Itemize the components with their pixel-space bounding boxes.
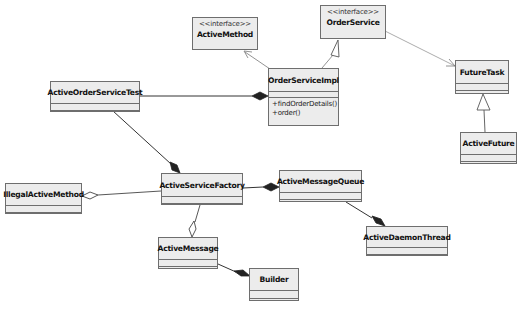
- class-header: Builder: [250, 269, 298, 291]
- generalization-activefuture-futuretask: [477, 94, 490, 132]
- operations-section: [162, 204, 242, 209]
- class-order-service[interactable]: <<interface>> OrderService: [320, 5, 386, 39]
- class-name: OrderService: [326, 17, 379, 28]
- class-header: FutureTask: [456, 61, 508, 84]
- attributes-section: [280, 193, 361, 200]
- operations-section: +findOrderDetails() +order(): [269, 98, 338, 125]
- composition-test-factory: [113, 111, 180, 173]
- operations-section: [461, 162, 516, 167]
- class-future-task[interactable]: FutureTask: [455, 60, 509, 94]
- operations-section: [456, 91, 508, 96]
- class-illegal-active-method[interactable]: IllegalActiveMethod: [5, 183, 82, 214]
- operation-find-order-details: +findOrderDetails(): [272, 100, 335, 109]
- class-name: Builder: [260, 274, 289, 285]
- composition-test-impl: [139, 92, 268, 100]
- attributes-section: [456, 84, 508, 91]
- operations-section: [159, 267, 217, 272]
- class-header: ActiveOrderServiceTest: [51, 82, 139, 104]
- attributes-section: [159, 260, 217, 267]
- operations-section: [51, 111, 139, 116]
- dependency-orderservice-futuretask: [385, 31, 455, 66]
- class-order-service-impl[interactable]: OrderServiceImpl +findOrderDetails() +or…: [268, 68, 339, 126]
- class-name: ActiveMessageQueue: [277, 176, 364, 187]
- class-name: ActiveFuture: [463, 138, 515, 149]
- attributes-section: [250, 291, 298, 299]
- attributes-section: [51, 104, 139, 111]
- class-header: ActiveDaemonThread: [367, 227, 447, 248]
- class-name: ActiveOrderServiceTest: [48, 87, 143, 98]
- class-header: <<interface>> OrderService: [321, 6, 385, 30]
- class-active-service-factory[interactable]: ActiveServiceFactory: [161, 173, 243, 205]
- composition-queue-daemon: [346, 202, 385, 226]
- diagram-canvas: <<interface>> ActiveMethod <<interface>>…: [0, 0, 523, 309]
- class-header: OrderServiceImpl: [269, 69, 338, 92]
- operations-section: [250, 299, 298, 304]
- operations-section: [280, 200, 361, 205]
- connectors-layer: [0, 0, 523, 309]
- composition-factory-queue: [243, 183, 279, 191]
- stereotype-label: <<interface>>: [199, 20, 251, 29]
- class-name: OrderServiceImpl: [268, 75, 339, 86]
- attributes-section: [6, 206, 81, 213]
- operations-section: [6, 213, 81, 218]
- realization-impl-orderservice: [322, 40, 339, 68]
- class-name: ActiveMethod: [197, 29, 253, 40]
- attributes-section: [367, 248, 447, 255]
- attributes-section: [461, 155, 516, 162]
- aggregation-factory-message: [189, 205, 200, 237]
- class-name: FutureTask: [460, 67, 505, 78]
- class-active-message[interactable]: ActiveMessage: [158, 237, 218, 269]
- class-name: ActiveMessage: [158, 243, 219, 254]
- class-active-future[interactable]: ActiveFuture: [460, 132, 517, 164]
- dependency-impl-activemethod: [244, 51, 270, 69]
- class-header: <<interface>> ActiveMethod: [193, 18, 257, 42]
- class-name: ActiveDaemonThread: [363, 232, 450, 243]
- class-header: ActiveFuture: [461, 133, 516, 155]
- aggregation-factory-illegal: [82, 191, 161, 199]
- attributes-section: [162, 197, 242, 204]
- class-active-daemon-thread[interactable]: ActiveDaemonThread: [366, 226, 448, 256]
- class-name: ActiveServiceFactory: [159, 180, 244, 191]
- class-header: ActiveServiceFactory: [162, 174, 242, 197]
- operation-order: +order(): [272, 109, 335, 118]
- class-header: IllegalActiveMethod: [6, 184, 81, 206]
- class-name: IllegalActiveMethod: [3, 189, 84, 200]
- class-active-message-queue[interactable]: ActiveMessageQueue: [279, 170, 362, 202]
- composition-message-builder: [218, 264, 250, 276]
- class-active-method[interactable]: <<interface>> ActiveMethod: [192, 17, 258, 50]
- stereotype-label: <<interface>>: [327, 8, 379, 17]
- class-header: ActiveMessage: [159, 238, 217, 260]
- operations-section: [367, 255, 447, 260]
- class-builder[interactable]: Builder: [249, 268, 299, 301]
- class-active-order-service-test[interactable]: ActiveOrderServiceTest: [50, 81, 140, 112]
- class-header: ActiveMessageQueue: [280, 171, 361, 193]
